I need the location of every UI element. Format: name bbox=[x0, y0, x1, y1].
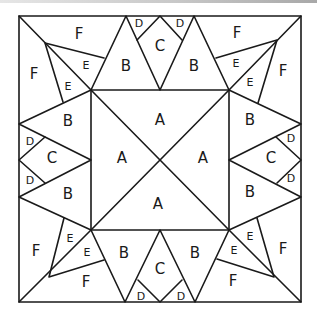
label-c-left: C bbox=[47, 149, 57, 167]
label-e-bl-lower: E bbox=[84, 246, 91, 259]
label-e-tl-upper: E bbox=[83, 59, 90, 72]
label-d-top-left: D bbox=[135, 17, 143, 30]
label-a-top: A bbox=[155, 111, 166, 129]
label-d-left-top: D bbox=[26, 135, 34, 148]
label-c-bottom: C bbox=[155, 260, 165, 278]
corner-bottom-left bbox=[19, 218, 104, 302]
label-e-tr-upper: E bbox=[233, 57, 240, 70]
label-d-right-bottom: D bbox=[287, 172, 295, 185]
label-e-tr-lower: E bbox=[247, 76, 254, 89]
label-f-tl-top: F bbox=[75, 25, 84, 43]
label-f-bl-bottom: F bbox=[82, 273, 91, 291]
label-b-bottom-left: B bbox=[119, 244, 129, 262]
label-f-br-side: F bbox=[279, 240, 288, 258]
label-b-top-left: B bbox=[121, 57, 131, 75]
label-b-bottom-right: B bbox=[190, 244, 200, 262]
corner-top-right bbox=[216, 16, 301, 103]
label-d-top-right: D bbox=[176, 17, 184, 30]
label-e-br-lower: E bbox=[231, 244, 238, 257]
label-d-right-top: D bbox=[287, 132, 295, 145]
label-a-bottom: A bbox=[153, 195, 164, 213]
label-b-left-top: B bbox=[63, 112, 73, 130]
label-e-br-upper: E bbox=[247, 230, 254, 243]
label-f-tl-side: F bbox=[30, 65, 39, 83]
label-c-right: C bbox=[266, 149, 276, 167]
label-b-right-bottom: B bbox=[245, 183, 255, 201]
label-b-top-right: B bbox=[189, 57, 199, 75]
label-c-top: C bbox=[155, 37, 165, 55]
label-f-tr-top: F bbox=[233, 24, 242, 42]
label-b-left-bottom: B bbox=[63, 185, 73, 203]
quilt-block-diagram: A A A A B C B D D B C B D D B C B D D B … bbox=[0, 0, 317, 323]
label-b-right-top: B bbox=[245, 111, 255, 129]
label-f-tr-side: F bbox=[279, 62, 288, 80]
label-d-bottom-left: D bbox=[137, 290, 145, 303]
label-a-right: A bbox=[198, 149, 209, 167]
label-a-left: A bbox=[117, 149, 128, 167]
label-e-bl-upper: E bbox=[67, 232, 74, 245]
label-f-br-bottom: F bbox=[229, 272, 238, 290]
label-d-left-bottom: D bbox=[26, 174, 34, 187]
label-d-bottom-right: D bbox=[177, 290, 185, 303]
label-e-tl-lower: E bbox=[65, 80, 72, 93]
label-f-bl-side: F bbox=[32, 242, 41, 260]
